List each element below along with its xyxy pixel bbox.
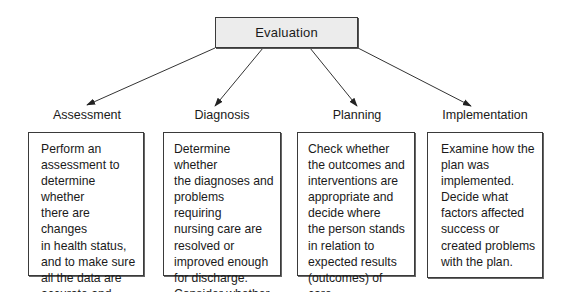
- assessment-description-box: Perform an assessment to determine wheth…: [28, 132, 144, 276]
- arrow-to-planning: [310, 48, 357, 106]
- diagnosis-description-box: Determine whether the diagnoses and prob…: [163, 132, 281, 276]
- implementation-label: Implementation: [442, 108, 527, 122]
- assessment-label: Assessment: [53, 108, 121, 122]
- implementation-description-box: Examine how the plan was implemented. De…: [427, 132, 543, 278]
- arrow-to-diagnosis: [215, 48, 263, 106]
- arrow-to-assessment: [87, 48, 215, 105]
- planning-label: Planning: [333, 108, 382, 122]
- planning-description-box: Check whether the outcomes and intervent…: [297, 132, 415, 276]
- diagnosis-label: Diagnosis: [195, 108, 250, 122]
- evaluation-node: Evaluation: [215, 17, 358, 48]
- arrow-to-implementation: [358, 48, 471, 106]
- evaluation-label: Evaluation: [255, 25, 318, 40]
